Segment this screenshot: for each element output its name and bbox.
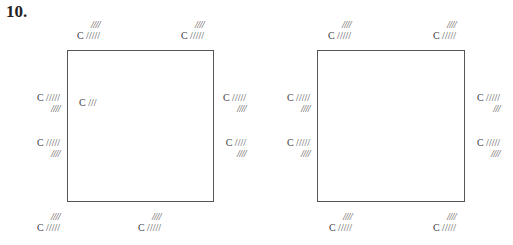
left-square <box>67 50 214 202</box>
left-right-label-2: C //// //// <box>218 137 246 159</box>
left-bottom-label-1: //// C ///// <box>20 211 60 233</box>
right-top-label-1: //// C ///// <box>311 19 351 41</box>
left-top-label-1: //// C ///// <box>60 19 100 41</box>
right-right-label-1: C ///// /// <box>468 92 500 114</box>
right-left-label-2: C ///// //// <box>270 137 310 159</box>
right-right-label-2: C ///// //// <box>468 137 500 159</box>
left-inner-label: C /// <box>79 97 97 108</box>
left-top-label-2: //// C ///// <box>164 19 204 41</box>
left-bottom-label-2: //// C ///// <box>121 211 161 233</box>
left-left-label-2: C ///// //// <box>20 137 60 159</box>
right-left-label-1: C ///// //// <box>270 92 310 114</box>
problem-number: 10. <box>6 2 27 22</box>
right-bottom-label-2: //// C ///// <box>416 211 456 233</box>
left-left-label-1: C ///// //// <box>20 92 60 114</box>
right-square <box>317 50 465 202</box>
right-top-label-2: //// C ///// <box>416 19 456 41</box>
right-bottom-label-1: //// C ///// <box>312 211 352 233</box>
left-right-label-1: C ///// //// <box>218 92 246 114</box>
